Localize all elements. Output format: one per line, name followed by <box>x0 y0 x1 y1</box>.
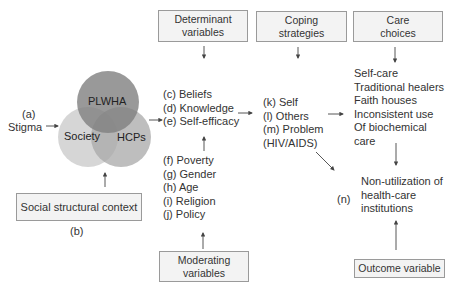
moderator-item: (i) Religion <box>163 195 216 209</box>
moderating-variables-box: Moderating variables <box>159 251 249 282</box>
care-choices-box: Care choices <box>353 11 443 42</box>
outcome-line: health-care <box>361 189 443 203</box>
care-box-line2: choices <box>380 27 416 40</box>
care-item: Of biochemical <box>354 121 444 135</box>
moderators-list: (f) Poverty (g) Gender (h) Age (i) Relig… <box>163 154 216 222</box>
outcome-list: Non-utilization of health-care instituti… <box>361 175 443 216</box>
determinant-variables-box: Determinant variables <box>158 10 248 42</box>
determinants-list: (c) Beliefs (d) Knowledge (e) Self-effic… <box>163 88 239 129</box>
social-context-label: Social structural context <box>21 201 138 214</box>
coping-strategies-box: Coping strategies <box>256 11 347 42</box>
venn-label-hcps: HCPs <box>117 131 146 143</box>
determinant-box-line1: Determinant <box>174 13 231 26</box>
social-context-box: Social structural context <box>16 193 142 221</box>
stigma-marker: (a) <box>22 107 35 121</box>
care-box-line1: Care <box>387 14 410 27</box>
care-item: care <box>354 135 444 149</box>
moderator-item: (f) Poverty <box>163 154 216 168</box>
moderator-item: (g) Gender <box>163 168 216 182</box>
coping-item: (HIV/AIDS) <box>263 137 324 151</box>
determinant-box-line2: variables <box>182 26 224 39</box>
care-item: Self-care <box>354 67 444 81</box>
moderating-box-line2: variables <box>183 267 225 280</box>
coping-item: (k) Self <box>263 96 324 110</box>
moderating-box-line1: Moderating <box>178 254 231 267</box>
venn-label-plwha: PLWHA <box>88 95 126 107</box>
care-item: Traditional healers <box>354 81 444 95</box>
coping-item: (l) Others <box>263 110 324 124</box>
moderator-item: (j) Policy <box>163 208 216 222</box>
social-context-marker: (b) <box>70 224 83 238</box>
determinant-item: (e) Self-efficacy <box>163 115 239 129</box>
stigma-label: Stigma <box>8 120 42 134</box>
care-item: Inconsistent use <box>354 108 444 122</box>
outcome-box-label: Outcome variable <box>358 262 440 275</box>
arrow-coping-to-outcome <box>316 152 334 170</box>
coping-box-line1: Coping <box>285 14 318 27</box>
outcome-line: institutions <box>361 202 443 216</box>
care-item: Faith houses <box>354 94 444 108</box>
outcome-marker: (n) <box>337 192 350 206</box>
coping-item: (m) Problem <box>263 123 324 137</box>
care-choices-list: Self-care Traditional healers Faith hous… <box>354 67 444 149</box>
coping-box-line2: strategies <box>279 27 325 40</box>
venn-diagram <box>58 71 151 167</box>
coping-list: (k) Self (l) Others (m) Problem (HIV/AID… <box>263 96 324 150</box>
determinant-item: (c) Beliefs <box>163 88 239 102</box>
determinant-item: (d) Knowledge <box>163 102 239 116</box>
moderator-item: (h) Age <box>163 181 216 195</box>
venn-label-society: Society <box>64 130 100 142</box>
outcome-variable-box: Outcome variable <box>354 259 445 278</box>
outcome-line: Non-utilization of <box>361 175 443 189</box>
